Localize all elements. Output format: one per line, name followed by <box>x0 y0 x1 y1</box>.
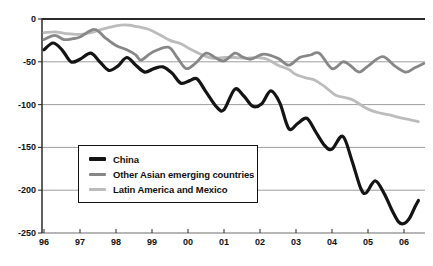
x-tick-label: 05 <box>363 237 373 247</box>
chart-canvas: 0-50-100-150-200-25096979899000102030405… <box>0 0 433 266</box>
legend-item-latam: Latin America and Mexico <box>89 184 257 195</box>
other-asia-line-swatch <box>89 173 106 176</box>
legend-label-latam: Latin America and Mexico <box>113 184 227 195</box>
china-line-swatch <box>89 157 106 160</box>
legend-label-other-asia: Other Asian emerging countries <box>113 169 254 180</box>
line-chart-figure: 0-50-100-150-200-25096979899000102030405… <box>0 0 433 266</box>
x-tick-label: 06 <box>399 237 409 247</box>
x-tick-label: 97 <box>75 237 85 247</box>
x-tick-label: 01 <box>219 237 229 247</box>
y-tick-label: -150 <box>18 142 36 152</box>
y-tick-label: 0 <box>31 14 36 24</box>
y-tick-label: -100 <box>18 100 36 110</box>
x-tick-label: 00 <box>183 237 193 247</box>
legend-item-other-asia: Other Asian emerging countries <box>89 169 257 180</box>
latam-line-swatch <box>89 188 106 191</box>
y-tick-label: -250 <box>18 228 36 238</box>
x-tick-label: 02 <box>255 237 265 247</box>
y-tick-label: -50 <box>23 57 36 67</box>
legend-item-china: China <box>89 154 257 165</box>
series-line-other-asian-emerging-countries <box>44 29 424 72</box>
y-tick-label: -200 <box>18 185 36 195</box>
x-tick-label: 96 <box>39 237 49 247</box>
series-line-latin-america-and-mexico <box>44 25 418 122</box>
x-tick-label: 04 <box>327 237 337 247</box>
x-tick-label: 98 <box>111 237 121 247</box>
x-tick-label: 99 <box>147 237 157 247</box>
chart-legend: China Other Asian emerging countries Lat… <box>78 145 258 203</box>
legend-label-china: China <box>113 154 139 165</box>
x-tick-label: 03 <box>291 237 301 247</box>
